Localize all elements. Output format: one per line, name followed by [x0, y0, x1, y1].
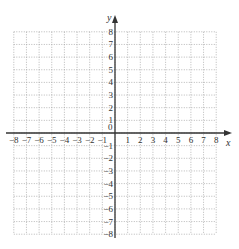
x-tick-label: −5	[47, 135, 57, 145]
y-tick-label: −2	[103, 153, 113, 163]
coordinate-plane: −8−7−6−5−4−3−2−11234567887654321−1−2−3−4…	[0, 0, 239, 249]
y-tick-label: 3	[109, 90, 114, 100]
y-tick-label: −4	[103, 179, 113, 189]
x-tick-label: 1	[125, 135, 130, 145]
y-tick-label: 2	[109, 103, 114, 113]
y-tick-label: −6	[103, 204, 113, 214]
y-tick-label: 6	[109, 52, 114, 62]
y-tick-label: 5	[109, 65, 114, 75]
x-tick-label: −2	[85, 135, 95, 145]
x-tick-label: −4	[60, 135, 70, 145]
origin-label: 0	[108, 122, 113, 132]
y-tick-label: −5	[103, 191, 113, 201]
y-axis-arrow-icon	[112, 15, 118, 23]
x-tick-label: −7	[22, 135, 32, 145]
y-tick-label: 7	[109, 39, 114, 49]
x-tick-label: −6	[34, 135, 44, 145]
y-axis-label: y	[106, 12, 112, 23]
x-tick-label: 5	[176, 135, 181, 145]
x-tick-label: 3	[151, 135, 156, 145]
y-tick-label: −8	[103, 229, 113, 239]
x-tick-label: 8	[214, 135, 219, 145]
y-tick-label: −1	[103, 141, 113, 151]
axes	[6, 15, 232, 238]
y-tick-label: 4	[109, 77, 114, 87]
x-tick-label: 2	[138, 135, 143, 145]
x-tick-label: −8	[9, 135, 19, 145]
x-tick-label: −3	[72, 135, 82, 145]
y-tick-label: −3	[103, 166, 113, 176]
y-tick-label: −7	[103, 217, 113, 227]
x-tick-label: 6	[189, 135, 194, 145]
x-axis-label: x	[225, 137, 231, 148]
x-tick-label: 4	[163, 135, 168, 145]
y-tick-label: 8	[109, 27, 114, 37]
x-axis-arrow-icon	[224, 130, 232, 136]
x-tick-label: 7	[201, 135, 206, 145]
